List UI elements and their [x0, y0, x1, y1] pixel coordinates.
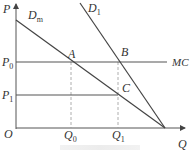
point-c-label: C [122, 81, 131, 95]
economics-diagram: P Q O Dm D1 MC P0 P1 Q0 Q1 A B C [0, 0, 191, 154]
dm-curve [16, 20, 165, 128]
x-axis-label: Q [178, 137, 187, 151]
y-axis-label: P [2, 2, 11, 16]
faint-caption [60, 145, 140, 150]
q1-label: Q1 [112, 128, 125, 144]
d1-label: D1 [87, 1, 101, 17]
mc-label: MC [171, 56, 189, 68]
p1-label: P1 [1, 88, 13, 104]
point-a-label: A [67, 47, 76, 61]
point-b-label: B [121, 45, 129, 59]
q0-label: Q0 [64, 128, 77, 144]
p0-label: P0 [1, 55, 13, 71]
d1-curve [80, 3, 165, 128]
dm-label: Dm [27, 8, 44, 24]
origin-label: O [4, 127, 13, 141]
